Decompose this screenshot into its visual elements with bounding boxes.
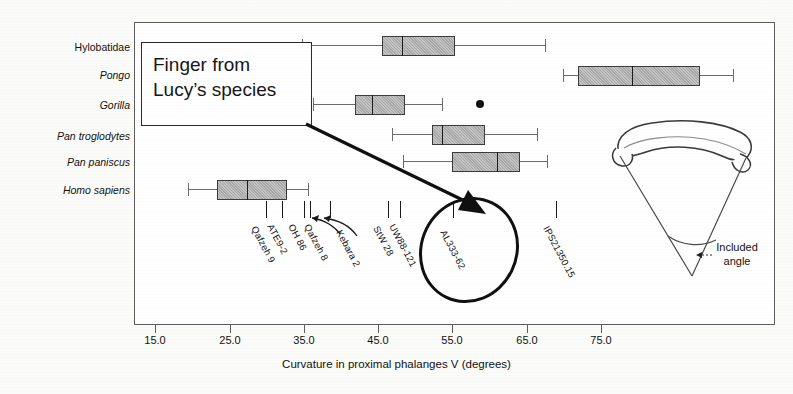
callout-line-2: Lucy’s species [153, 77, 311, 102]
whisker-cap-min [313, 98, 314, 111]
whisker-cap-min [188, 183, 189, 196]
included-angle-label: Included angle [706, 240, 768, 268]
whisker-cap-min [563, 69, 564, 82]
callout-arrow [300, 118, 515, 223]
specimen-tick-ate9-2 [282, 201, 283, 218]
x-tick-label-35: 35.0 [282, 334, 326, 346]
x-tick-35 [304, 325, 305, 333]
median-line [372, 95, 373, 115]
boxplot-pongo [0, 63, 793, 89]
x-tick-15 [155, 325, 156, 333]
x-tick-65 [527, 325, 528, 333]
whisker-cap-max [442, 98, 443, 111]
box-iqr [355, 95, 405, 115]
x-tick-75 [601, 325, 602, 333]
whisker-cap-max [545, 39, 546, 52]
callout-box: Finger from Lucy’s species [141, 42, 312, 126]
callout-line-1: Finger from [153, 52, 311, 77]
whisker-cap-max [733, 69, 734, 82]
median-line [632, 66, 633, 86]
median-line [402, 36, 403, 56]
specimen-tick-qafzeh-9 [266, 201, 267, 218]
boxplot-hylobatidae [0, 33, 793, 59]
x-axis-title: Curvature in proximal phalanges V (degre… [0, 358, 793, 370]
x-tick-label-75: 75.0 [579, 334, 623, 346]
x-tick-55 [452, 325, 453, 333]
specimen-tick-ips21350-15 [556, 201, 557, 218]
figure-canvas: Hylobatidae Pongo Gorilla Pan troglodyte… [0, 0, 793, 394]
x-tick-45 [378, 325, 379, 333]
outlier-point [476, 100, 484, 108]
x-tick-label-65: 65.0 [505, 334, 549, 346]
box-iqr [217, 180, 287, 200]
x-tick-label-15: 15.0 [133, 334, 177, 346]
x-tick-25 [230, 325, 231, 333]
x-tick-label-25: 25.0 [208, 334, 252, 346]
x-tick-label-45: 45.0 [356, 334, 400, 346]
x-tick-label-55: 55.0 [430, 334, 474, 346]
whisker-cap-max [537, 128, 538, 141]
median-line [247, 180, 248, 200]
phalanx-bone-diagram [600, 112, 770, 302]
box-iqr [578, 66, 700, 86]
box-iqr [382, 36, 455, 56]
whisker-cap-max [547, 155, 548, 168]
